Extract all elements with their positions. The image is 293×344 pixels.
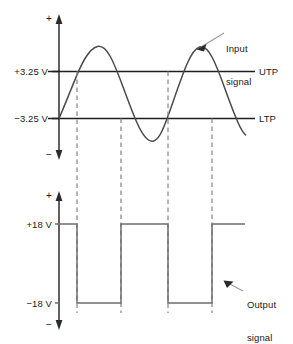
minus18-value-label: −18 V: [0, 298, 52, 309]
input-signal-annotation-line2: signal: [226, 76, 251, 87]
bottom-axis-group: [56, 191, 63, 330]
top-axis-down-arrow-icon: [56, 150, 63, 160]
top-axis-minus-sign: −: [46, 150, 52, 160]
utp-value-label: +3.25 V: [0, 66, 48, 77]
bottom-axis-minus-sign: −: [46, 320, 52, 330]
output-leader-arrow-icon: [224, 281, 234, 289]
bottom-axis-up-arrow-icon: [56, 191, 63, 201]
input-leader-line: [201, 33, 224, 47]
top-axis-plus-sign: +: [46, 14, 52, 24]
input-signal-leader: [197, 33, 225, 52]
top-axis-group: [56, 14, 63, 160]
input-signal-annotation: Input signal: [226, 21, 251, 109]
top-axis-up-arrow-icon: [56, 14, 63, 24]
bottom-axis-plus-sign: +: [46, 191, 52, 201]
output-signal-leader: [224, 281, 244, 292]
ltp-value-label: −3.25 V: [0, 113, 48, 124]
output-square-waveform: [59, 224, 245, 303]
output-signal-annotation-line1: Output: [247, 299, 276, 310]
schmitt-trigger-figure: + − +3.25 V −3.25 V UTP LTP Input signal…: [0, 0, 293, 344]
input-sine-waveform: [59, 46, 246, 141]
input-signal-annotation-line1: Input: [226, 43, 251, 54]
ltp-label: LTP: [259, 113, 276, 124]
utp-label: UTP: [259, 66, 278, 77]
output-signal-annotation: Output signal: [247, 277, 276, 344]
output-signal-annotation-line2: signal: [247, 332, 276, 343]
plus18-value-label: +18 V: [0, 219, 52, 230]
bottom-axis-down-arrow-icon: [56, 320, 63, 330]
